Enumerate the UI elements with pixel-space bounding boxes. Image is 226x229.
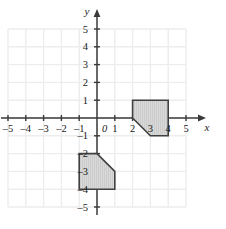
x-tick-label: –2 xyxy=(55,123,67,134)
plot-background xyxy=(0,0,226,229)
y-tick-label: 4 xyxy=(83,41,89,52)
y-tick-label: 2 xyxy=(83,77,88,88)
x-tick-label: 3 xyxy=(148,123,153,134)
x-tick-label: –3 xyxy=(37,123,49,134)
x-tick-label: 5 xyxy=(183,123,188,134)
x-tick-label: –4 xyxy=(20,123,32,134)
y-tick-label: –2 xyxy=(77,148,89,159)
coordinate-plane-figure: –5–4–3–2–11234554321–1–2–3–4–50xy x y 0 xyxy=(0,0,226,229)
y-tick-label: –5 xyxy=(77,202,89,213)
y-tick-label: 3 xyxy=(83,59,88,70)
y-tick-label: –4 xyxy=(77,184,89,195)
x-tick-label: –5 xyxy=(2,123,14,134)
coordinate-plot-svg: –5–4–3–2–11234554321–1–2–3–4–50xy xyxy=(0,0,226,229)
y-axis-label: y xyxy=(84,5,90,17)
y-tick-label: 1 xyxy=(83,95,88,106)
x-tick-label: 4 xyxy=(166,123,172,134)
x-axis-label: x xyxy=(204,121,210,133)
x-tick-label: 1 xyxy=(112,123,117,134)
origin-label: 0 xyxy=(102,123,108,134)
x-tick-label: 2 xyxy=(130,123,135,134)
y-tick-label: –1 xyxy=(77,130,89,141)
y-tick-label: 5 xyxy=(83,24,88,35)
y-tick-label: –3 xyxy=(77,166,89,177)
